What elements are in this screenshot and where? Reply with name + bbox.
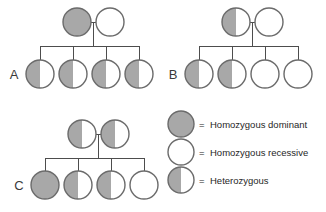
parent-symbol-2 [96, 8, 124, 36]
legend-label-homozygous-recessive: Homozygous recessive [210, 147, 308, 158]
legend-equals-sign: = [199, 119, 205, 130]
pedigree-figure: ABC =Homozygous dominant=Homozygous rece… [0, 0, 326, 212]
child-symbol-1 [185, 60, 213, 88]
legend-swatch-homozygous-recessive [168, 139, 194, 165]
child-symbol-1 [26, 60, 54, 88]
symbol-fill-full [168, 111, 194, 137]
child-symbol-3 [251, 60, 279, 88]
child-symbol-2 [64, 171, 92, 199]
child-symbol-4 [125, 60, 153, 88]
panel-label-b: B [169, 67, 178, 82]
symbol-fill-empty [284, 60, 312, 88]
symbol-fill-empty [251, 60, 279, 88]
child-symbol-4 [284, 60, 312, 88]
legend-label-homozygous-dominant: Homozygous dominant [210, 119, 308, 130]
symbol-fill-empty [255, 8, 283, 36]
legend-swatch-homozygous-dominant [168, 111, 194, 137]
legend-equals-sign: = [199, 147, 205, 158]
child-symbol-3 [92, 60, 120, 88]
parent-symbol-2 [255, 8, 283, 36]
legend-label-heterozygous: Heterozygous [210, 175, 269, 186]
symbol-fill-empty [96, 8, 124, 36]
parent-symbol-1 [68, 120, 96, 148]
parent-symbol-1 [222, 8, 250, 36]
panel-label-a: A [10, 67, 19, 82]
child-symbol-2 [59, 60, 87, 88]
symbol-fill-full [31, 171, 59, 199]
parent-symbol-1 [63, 8, 91, 36]
child-symbol-1 [31, 171, 59, 199]
legend-swatch-heterozygous [168, 167, 194, 193]
symbol-fill-full [63, 8, 91, 36]
symbol-fill-empty [168, 139, 194, 165]
child-symbol-2 [218, 60, 246, 88]
child-symbol-4 [130, 171, 158, 199]
child-symbol-3 [97, 171, 125, 199]
symbol-fill-empty [130, 171, 158, 199]
panel-label-c: C [14, 178, 23, 193]
parent-symbol-2 [101, 120, 129, 148]
pedigree-canvas: ABC =Homozygous dominant=Homozygous rece… [0, 0, 326, 212]
legend-equals-sign: = [199, 175, 205, 186]
